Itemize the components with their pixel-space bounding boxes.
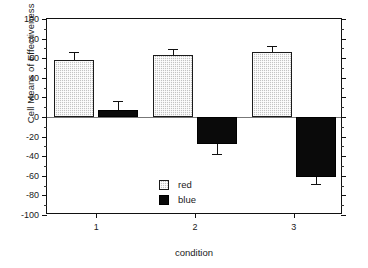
y-axis-tick — [341, 39, 346, 40]
x-axis-tick-label: 2 — [192, 222, 197, 232]
y-axis-tick — [42, 19, 47, 20]
legend-label-red: red — [178, 179, 192, 190]
bar-blue-2 — [197, 117, 237, 144]
y-axis-minor-tick — [341, 88, 344, 89]
error-bar-cap-red-2 — [168, 49, 178, 50]
legend-label-blue: blue — [178, 194, 196, 205]
y-axis-minor-tick — [341, 205, 344, 206]
y-axis-tick-label: 60 — [29, 53, 39, 63]
y-axis-minor-tick — [44, 29, 47, 30]
y-axis-minor-tick — [44, 68, 47, 69]
y-axis-minor-tick — [44, 127, 47, 128]
error-bar-blue-3 — [316, 177, 317, 184]
bar-red-1 — [54, 60, 94, 117]
chart-legend: red blue — [159, 177, 196, 207]
y-axis-tick-label: 80 — [29, 34, 39, 44]
y-axis-tick — [42, 97, 47, 98]
x-axis-tick — [96, 213, 97, 218]
y-axis-tick — [42, 78, 47, 79]
bar-red-3 — [252, 52, 292, 117]
y-axis-tick — [42, 58, 47, 59]
y-axis-tick-label: -20 — [26, 132, 39, 142]
bar-red-2 — [153, 55, 193, 117]
y-axis-minor-tick — [44, 107, 47, 108]
y-axis-minor-tick — [341, 107, 344, 108]
y-axis-minor-tick — [341, 186, 344, 187]
error-bar-blue-2 — [217, 144, 218, 154]
legend-item-blue: blue — [159, 192, 196, 207]
y-axis-tick-label: -100 — [21, 210, 39, 220]
x-axis-tick — [195, 213, 196, 218]
y-axis-tick-label: 0 — [34, 112, 39, 122]
bar-blue-1 — [98, 110, 138, 117]
y-axis-tick — [341, 78, 346, 79]
y-axis-tick — [341, 156, 346, 157]
x-axis-tick — [294, 213, 295, 218]
y-axis-tick-label: 40 — [29, 73, 39, 83]
error-bar-cap-blue-2 — [212, 154, 222, 155]
y-axis-tick-label: -60 — [26, 171, 39, 181]
y-axis-tick — [341, 195, 346, 196]
y-axis-tick — [341, 176, 346, 177]
y-axis-minor-tick — [341, 166, 344, 167]
y-axis-minor-tick — [341, 127, 344, 128]
y-axis-minor-tick — [44, 166, 47, 167]
y-axis-minor-tick — [44, 186, 47, 187]
x-axis-tick-label: 3 — [291, 222, 296, 232]
y-axis-tick — [42, 176, 47, 177]
y-axis-minor-tick — [44, 88, 47, 89]
legend-item-red: red — [159, 177, 196, 192]
y-axis-tick — [42, 117, 47, 118]
error-bar-cap-red-3 — [267, 46, 277, 47]
y-axis-tick — [341, 58, 346, 59]
y-axis-minor-tick — [341, 146, 344, 147]
bar-blue-3 — [296, 117, 336, 177]
error-bar-blue-1 — [118, 101, 119, 110]
legend-swatch-red — [159, 180, 169, 190]
y-axis-tick — [341, 19, 346, 20]
y-axis-tick-label: -40 — [26, 151, 39, 161]
y-axis-tick — [42, 156, 47, 157]
y-axis-tick — [341, 117, 346, 118]
y-axis-minor-tick — [341, 68, 344, 69]
error-bar-cap-red-1 — [69, 52, 79, 53]
x-axis-tick-label: 1 — [94, 222, 99, 232]
y-axis-minor-tick — [44, 48, 47, 49]
error-bar-cap-blue-3 — [311, 184, 321, 185]
plot-area: 100806040200-20-40-60-80-100123 red blue — [46, 18, 342, 214]
y-axis-tick — [42, 137, 47, 138]
y-axis-tick — [341, 215, 346, 216]
bar-chart: Cell Means of Effectiveness Ratings cond… — [0, 0, 368, 268]
y-axis-tick — [341, 97, 346, 98]
y-axis-minor-tick — [341, 29, 344, 30]
y-axis-tick-label: -80 — [26, 190, 39, 200]
y-axis-tick-label: 20 — [29, 92, 39, 102]
error-bar-cap-blue-1 — [113, 101, 123, 102]
y-axis-minor-tick — [341, 48, 344, 49]
y-axis-minor-tick — [44, 146, 47, 147]
legend-swatch-blue — [159, 195, 169, 205]
y-axis-tick — [42, 39, 47, 40]
y-axis-tick — [42, 215, 47, 216]
y-axis-tick — [341, 137, 346, 138]
y-axis-tick — [42, 195, 47, 196]
y-axis-tick-label: 100 — [24, 14, 39, 24]
error-bar-red-1 — [74, 52, 75, 60]
y-axis-minor-tick — [44, 205, 47, 206]
x-axis-title: condition — [46, 247, 342, 258]
